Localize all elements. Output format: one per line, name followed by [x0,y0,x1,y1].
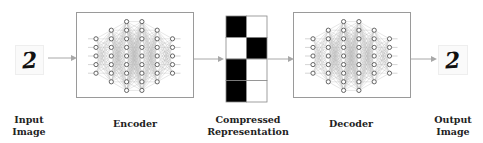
input-label-line2: Image [8,126,50,138]
latent-label-line2: Representation [200,126,296,138]
output-label-line1: Output [430,114,476,126]
arrow-decoder-to-output [411,56,437,62]
latent-cell [247,38,268,60]
latent-cell [226,59,247,81]
arrow-input-to-encoder [48,55,77,61]
latent-cell [247,59,268,81]
output-image-label: Output Image [430,114,476,138]
input-label-line1: Input [8,114,50,126]
latent-cell [247,16,268,38]
encoder-label-text: Encoder [100,118,170,130]
encoder-label: Encoder [100,118,170,130]
latent-cell [226,38,247,60]
output-label-line2: Image [430,126,476,138]
latent-cell [226,81,247,103]
arrow-latent-to-decoder [268,56,294,62]
decoder-network [305,20,398,93]
latent-label-line1: Compressed [200,114,296,126]
decoder-label: Decoder [316,118,386,130]
arrow-encoder-to-latent [194,56,224,62]
input-image-label: Input Image [8,114,50,138]
encoder-network [88,20,181,93]
decoder-label-text: Decoder [316,118,386,130]
compressed-representation-label: Compressed Representation [200,114,296,138]
compressed-representation-grid [226,16,267,102]
latent-cell [247,81,268,103]
latent-cell [226,16,247,38]
